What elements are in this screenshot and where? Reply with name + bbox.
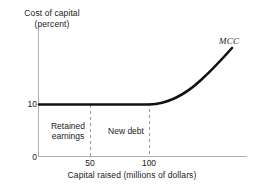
annotation-retained-line1: Retained	[44, 121, 92, 131]
origin-label-0: 0	[20, 152, 37, 162]
mcc-curve-label: MCC	[219, 36, 239, 46]
annotation-retained-earnings: Retained earnings	[44, 121, 92, 141]
x-tick-label-100: 100	[136, 158, 162, 168]
y-tick-label-10: 10	[20, 99, 37, 109]
mcc-curve	[39, 48, 232, 105]
annotation-retained-line2: earnings	[44, 131, 92, 141]
plot-area	[0, 0, 259, 187]
x-tick-label-50: 50	[77, 158, 103, 168]
mcc-chart-figure: Cost of capital (percent) 10 0 50 100 Re…	[0, 0, 259, 187]
annotation-new-debt: New debt	[100, 126, 152, 136]
x-axis-title: Capital raised (millions of dollars)	[52, 170, 212, 180]
